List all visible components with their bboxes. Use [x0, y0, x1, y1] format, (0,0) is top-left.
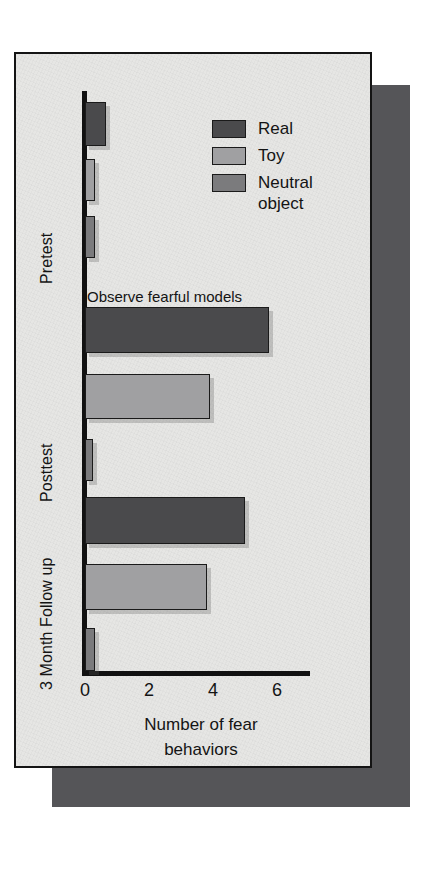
legend: Real Toy Neutral object: [212, 118, 313, 220]
legend-label-toy: Toy: [258, 145, 284, 166]
bar-posttest-neutral: [85, 439, 93, 481]
chart-panel: Observe fearful models Pretest Posttest …: [14, 52, 372, 768]
x-axis-title-line2: behaviors: [76, 737, 326, 762]
legend-swatch-toy-icon: [212, 147, 246, 165]
bar-followup-toy: [85, 564, 207, 610]
legend-item-real: Real: [212, 118, 313, 139]
x-tick-6: 6: [264, 680, 290, 701]
legend-item-toy: Toy: [212, 145, 313, 166]
x-axis-title-line1: Number of fear: [76, 712, 326, 737]
bar-pretest-real: [85, 102, 106, 146]
x-tick-0: 0: [72, 680, 98, 701]
group-label-pretest: Pretest: [38, 233, 56, 284]
bar-pretest-neutral: [85, 216, 95, 258]
group-label-3-month-follow-up: 3 Month Follow up: [38, 558, 56, 690]
x-tick-2: 2: [136, 680, 162, 701]
figure-root: Observe fearful models Pretest Posttest …: [0, 0, 423, 883]
bar-followup-real: [85, 497, 245, 544]
group-label-posttest: Posttest: [38, 443, 56, 502]
bar-posttest-real: [85, 307, 269, 353]
legend-label-real: Real: [258, 118, 293, 139]
legend-swatch-real-icon: [212, 120, 246, 138]
x-axis-line: [82, 671, 310, 676]
plot-area: Observe fearful models Pretest Posttest …: [16, 54, 374, 770]
legend-swatch-neutral-icon: [212, 174, 246, 192]
x-axis-title: Number of fear behaviors: [76, 712, 326, 762]
legend-label-neutral-object: Neutral object: [258, 172, 313, 214]
annotation-observe-fearful-models: Observe fearful models: [87, 288, 242, 305]
x-tick-4: 4: [200, 680, 226, 701]
bar-followup-neutral: [85, 628, 95, 671]
legend-item-neutral-object: Neutral object: [212, 172, 313, 214]
bar-pretest-toy: [85, 159, 95, 201]
bar-posttest-toy: [85, 374, 210, 419]
